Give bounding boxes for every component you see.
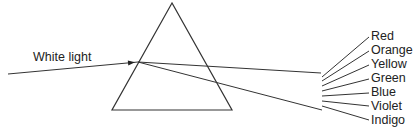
spectrum-line-orange (322, 51, 369, 81)
spectrum-label-orange: Orange (371, 43, 413, 57)
spectrum-line-green (322, 79, 369, 91)
refracted-ray-upper (138, 62, 321, 73)
spectrum-line-indigo (322, 106, 369, 120)
spectrum-line-blue (322, 93, 369, 96)
prism-dispersion-diagram: White light Red Orange Yellow Green Blue… (0, 0, 416, 140)
spectrum-line-red (322, 37, 369, 77)
spectrum-label-yellow: Yellow (371, 57, 407, 71)
spectrum-label-red: Red (371, 29, 394, 43)
refracted-ray-lower (138, 62, 322, 110)
spectrum-label-green: Green (371, 71, 406, 85)
prism-triangle (112, 3, 232, 110)
spectrum-label-violet: Violet (371, 99, 402, 113)
spectrum-line-violet (322, 101, 369, 106)
refracted-rays (138, 62, 322, 110)
spectrum-label-blue: Blue (371, 85, 396, 99)
white-light-label: White light (33, 50, 91, 64)
arrow-head-icon (128, 60, 135, 65)
diagram-canvas (0, 0, 416, 140)
spectrum-line-yellow (322, 65, 369, 86)
spectrum-label-indigo: Indigo (371, 113, 405, 127)
spectrum-fan-lines (322, 37, 369, 120)
